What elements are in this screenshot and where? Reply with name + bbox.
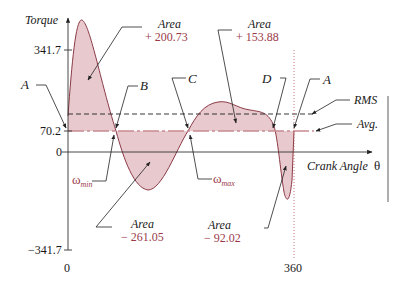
point-c: C xyxy=(188,72,197,85)
point-a-left: A xyxy=(21,78,29,91)
theta-symbol: θ xyxy=(374,159,380,172)
omega-min-label: ωmin xyxy=(72,173,93,189)
x-tick-0: 0 xyxy=(64,262,70,274)
y-axis-label: Torque xyxy=(25,14,58,26)
area-2-label: Area xyxy=(131,218,154,230)
area-3-label: Area xyxy=(248,18,271,30)
area-3-value: + 153.88 xyxy=(236,31,279,43)
area-1-label: Area xyxy=(158,18,181,30)
rms-label: RMS xyxy=(354,94,377,106)
x-tick-360: 360 xyxy=(284,262,302,274)
y-tick-zero: 0 xyxy=(56,146,62,158)
point-d: D xyxy=(262,72,271,85)
y-tick-min: −341.7 xyxy=(28,244,62,256)
y-tick-max: 341.7 xyxy=(34,44,61,56)
x-axis-label: Crank Angle xyxy=(307,160,368,172)
avg-label: Avg. xyxy=(357,118,378,130)
torque-curve-fill xyxy=(68,20,294,199)
point-a-right: A xyxy=(323,73,331,86)
area-1-value: + 200.73 xyxy=(145,31,188,43)
omega-max-label: ωmax xyxy=(213,172,235,188)
area-4-value: − 92.02 xyxy=(204,232,241,244)
point-b: B xyxy=(140,79,148,92)
y-tick-avg: 70.2 xyxy=(40,125,61,137)
area-2-value: − 261.05 xyxy=(121,231,164,243)
area-4-label: Area xyxy=(208,219,231,231)
